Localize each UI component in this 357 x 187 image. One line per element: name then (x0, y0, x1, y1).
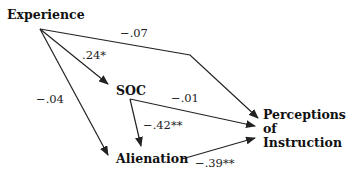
coef-soc-perceptions: −.01 (171, 92, 199, 104)
node-perceptions-line-2: of (263, 122, 346, 136)
coef-experience-soc: .24* (82, 49, 106, 61)
node-soc: SOC (116, 84, 146, 98)
node-experience: Experience (7, 8, 85, 22)
node-alienation: Alienation (116, 152, 188, 166)
node-perceptions-line-1: Perceptions (263, 108, 346, 122)
coef-experience-alienation: −.04 (36, 93, 64, 105)
node-perceptions-line-3: Instruction (263, 136, 346, 150)
coef-soc-alienation: −.42** (143, 119, 182, 131)
arrow-experience-to-perceptions (40, 29, 258, 118)
coef-experience-perceptions: −.07 (120, 27, 148, 39)
node-perceptions-of-instruction: Perceptions of Instruction (263, 108, 346, 150)
coef-alienation-perceptions: −.39** (195, 157, 234, 169)
arrow-soc-to-alienation (130, 99, 141, 146)
